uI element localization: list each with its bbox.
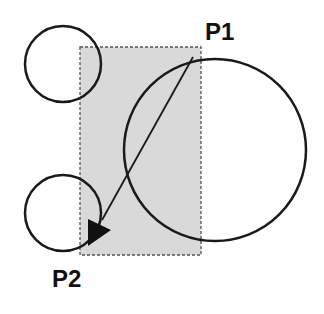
label-p2: P2 — [52, 265, 81, 292]
selection-diagram: P1 P2 — [0, 0, 324, 314]
label-p1: P1 — [205, 18, 234, 45]
